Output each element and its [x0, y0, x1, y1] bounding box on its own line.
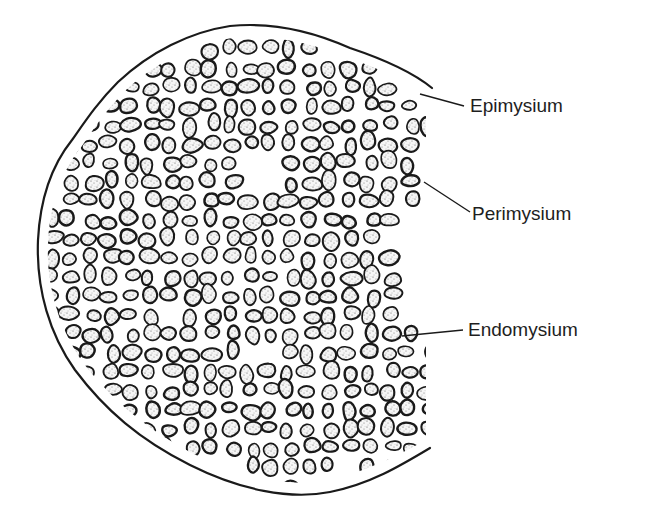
muscle-fiber — [360, 195, 379, 208]
muscle-fiber — [281, 249, 294, 263]
muscle-fiber — [279, 379, 293, 398]
muscle-fiber — [144, 324, 161, 340]
muscle-fiber — [143, 83, 158, 95]
muscle-fiber — [300, 345, 312, 364]
muscle-fiber — [146, 191, 161, 206]
muscle-fiber — [363, 439, 377, 453]
muscle-fiber — [345, 306, 361, 319]
muscle-fiber — [362, 306, 375, 324]
muscle-fiber — [322, 272, 334, 286]
muscle-fiber — [185, 418, 199, 433]
muscle-fiber — [103, 159, 117, 169]
muscle-fiber — [224, 116, 234, 132]
muscle-fiber — [286, 121, 298, 134]
muscle-fiber — [302, 177, 322, 190]
muscle-fiber — [262, 422, 277, 432]
muscle-fiber — [121, 405, 136, 417]
muscle-fiber — [102, 267, 117, 285]
muscle-fiber — [184, 271, 197, 288]
muscle-fiber — [342, 216, 356, 228]
muscle-fiber — [345, 231, 358, 246]
leader-line-epimysium — [420, 94, 464, 106]
muscle-fiber — [205, 136, 221, 149]
muscle-fiber — [122, 385, 137, 400]
muscle-fiber — [324, 122, 340, 133]
muscle-fiber — [300, 197, 317, 209]
muscle-fiber — [303, 459, 315, 473]
muscle-fiber — [147, 97, 160, 112]
muscle-fiber — [380, 214, 399, 226]
muscle-fiber — [222, 402, 237, 412]
muscle-fiber — [207, 231, 220, 244]
muscle-fiber — [300, 424, 313, 436]
muscle-fiber — [246, 327, 260, 345]
muscle-fiber — [263, 101, 275, 114]
muscle-fiber — [164, 388, 179, 400]
muscle-fiber — [284, 231, 300, 247]
muscle-fiber — [322, 101, 340, 114]
muscle-fiber — [120, 118, 141, 132]
muscle-fiber — [180, 177, 193, 190]
muscle-fiber — [283, 481, 299, 492]
muscle-fiber — [384, 116, 398, 128]
muscle-fiber — [381, 151, 396, 168]
muscle-fiber — [186, 230, 198, 245]
muscle-fiber — [305, 327, 320, 338]
muscle-fibers — [38, 39, 437, 492]
muscle-fiber — [204, 194, 218, 207]
muscle-fiber — [163, 212, 177, 228]
muscle-fiber — [228, 231, 241, 246]
muscle-fiber — [123, 290, 138, 300]
muscle-fiber — [323, 404, 333, 418]
muscle-fiber — [160, 227, 174, 245]
muscle-fiber — [346, 138, 356, 155]
muscle-fiber — [324, 81, 336, 96]
muscle-fiber — [280, 215, 294, 226]
muscle-fiber — [200, 99, 215, 111]
muscle-fiber — [340, 62, 357, 78]
muscle-fiber — [367, 213, 381, 225]
muscle-fiber — [199, 401, 215, 417]
muscle-fiber — [184, 382, 198, 396]
muscle-fiber — [404, 444, 419, 455]
muscle-fiber — [322, 458, 333, 471]
muscle-fiber — [324, 423, 339, 438]
muscle-fiber — [401, 158, 413, 175]
muscle-fiber — [220, 380, 232, 397]
muscle-fiber — [140, 423, 155, 437]
muscle-fiber — [126, 154, 139, 171]
label-endomysium: Endomysium — [468, 320, 578, 339]
muscle-fiber — [120, 139, 135, 154]
muscle-fiber — [336, 154, 354, 167]
muscle-fiber — [402, 383, 413, 398]
muscle-fiber — [366, 97, 378, 109]
muscle-fiber — [222, 272, 233, 285]
muscle-fiber — [224, 248, 241, 262]
muscle-fiber — [262, 251, 275, 264]
muscle-fiber — [306, 292, 320, 304]
muscle-fiber — [360, 177, 374, 193]
muscle-fiber — [287, 403, 302, 416]
muscle-fiber — [161, 252, 177, 263]
muscle-fiber — [400, 400, 414, 416]
muscle-fiber — [245, 269, 259, 282]
muscle-fiber — [245, 422, 262, 435]
muscle-fiber — [143, 287, 157, 303]
muscle-fiber — [245, 136, 258, 148]
muscle-fiber — [358, 418, 375, 435]
muscle-fiber — [384, 288, 402, 299]
muscle-fiber — [120, 99, 137, 113]
muscle-fiber — [363, 120, 377, 131]
muscle-fiber — [206, 326, 220, 338]
muscle-fiber — [225, 100, 237, 118]
muscle-fiber — [84, 265, 96, 283]
muscle-fiber — [224, 217, 239, 228]
muscle-fiber — [228, 341, 239, 359]
muscle-fiber — [225, 306, 236, 320]
muscle-fiber — [82, 141, 97, 152]
muscle-fiber — [301, 212, 316, 227]
muscle-fiber — [362, 61, 376, 74]
muscle-fiber — [368, 291, 380, 308]
muscle-fiber — [307, 83, 321, 96]
muscle-fiber — [342, 121, 355, 133]
